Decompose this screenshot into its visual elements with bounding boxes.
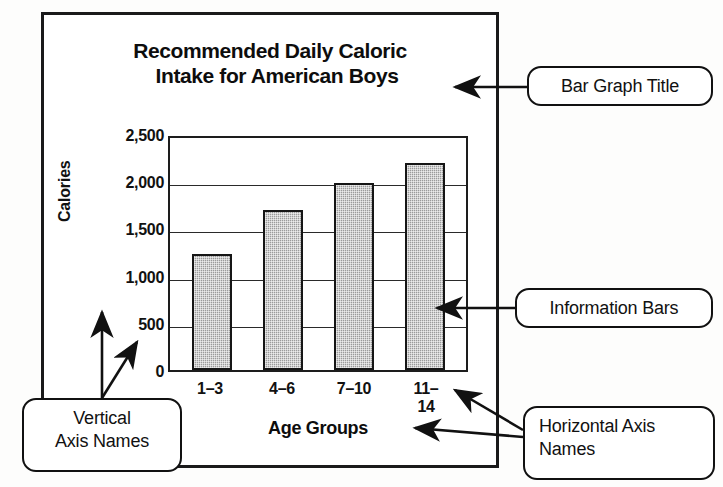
callout-bar-graph-title[interactable]: Bar Graph Title [527,66,713,106]
y-tick-2500: 2,500 [102,127,164,145]
chart-title-line-2: Intake for American Boys [74,63,480,88]
callout-vertical-axis-line-1: Vertical [38,407,166,430]
x-tick-1-3: 1–3 [190,380,230,404]
callout-information-bars-label: Information Bars [550,297,679,320]
y-tick-2000: 2,000 [102,174,164,192]
bar-1-3[interactable] [192,254,232,370]
x-axis-tick-labels: 1–3 4–6 7–10 11–14 [168,380,468,404]
callout-vertical-axis-names[interactable]: Vertical Axis Names [22,398,182,472]
x-axis-title: Age Groups [168,418,468,439]
bar-7-10[interactable] [334,183,374,370]
callout-horizontal-axis-line-1: Horizontal Axis [539,415,699,438]
y-tick-0: 0 [102,363,164,381]
chart-title-line-1: Recommended Daily Caloric [60,38,480,63]
y-axis-title: Calories [56,160,74,222]
bar-4-6[interactable] [263,210,303,370]
chart-title: Recommended Daily Caloric Intake for Ame… [60,38,480,88]
y-axis-tick-labels: 2,500 2,000 1,500 1,000 500 0 [98,136,164,372]
y-tick-1500: 1,500 [102,221,164,239]
callout-horizontal-axis-line-2: Names [539,438,699,461]
diagram-stage: Recommended Daily Caloric Intake for Ame… [0,0,723,487]
bars-layer [170,138,466,370]
callout-horizontal-axis-names[interactable]: Horizontal Axis Names [523,406,715,480]
callout-bar-graph-title-label: Bar Graph Title [561,75,679,98]
y-tick-500: 500 [102,316,164,334]
x-tick-4-6: 4–6 [262,380,302,404]
x-tick-11-14: 11–14 [406,380,446,404]
bar-11-14[interactable] [405,163,445,370]
x-tick-7-10: 7–10 [334,380,374,404]
callout-vertical-axis-line-2: Axis Names [38,430,166,453]
y-tick-1000: 1,000 [102,269,164,287]
callout-information-bars[interactable]: Information Bars [515,288,713,328]
plot-area [168,136,468,372]
